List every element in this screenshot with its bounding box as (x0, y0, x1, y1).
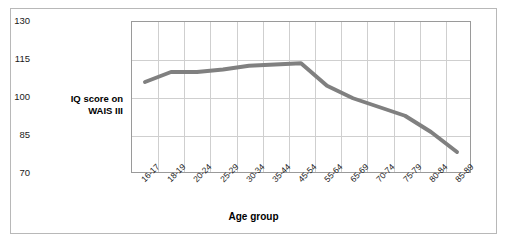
y-tick-115: 115 (0, 54, 30, 64)
y-tick-100: 100 (0, 92, 30, 102)
y-axis-title: IQ score on WAIS III (17, 93, 123, 117)
plot-area (131, 21, 471, 173)
data-series-line (132, 22, 470, 172)
y-axis-title-line-1: IQ score on (71, 93, 123, 104)
chart-figure: IQ score on WAIS III 7085100115130 16-17… (10, 8, 497, 234)
y-axis-title-line-2: WAIS III (88, 105, 123, 116)
x-axis-title: Age group (11, 211, 496, 222)
y-tick-85: 85 (0, 130, 30, 140)
y-tick-130: 130 (0, 16, 30, 26)
y-tick-70: 70 (0, 168, 30, 178)
